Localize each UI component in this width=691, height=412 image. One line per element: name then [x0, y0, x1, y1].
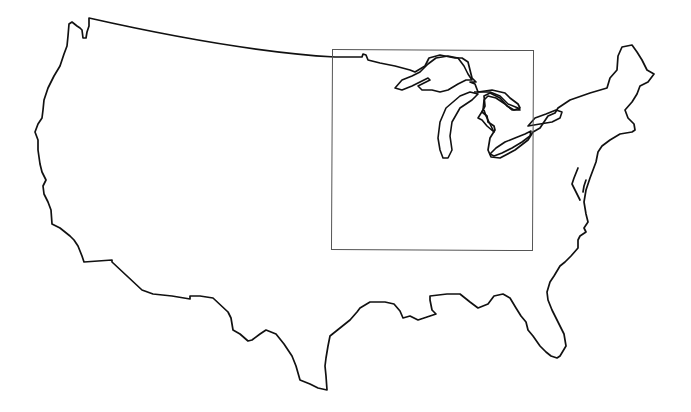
- lake-huron: [474, 92, 520, 132]
- us-map: [0, 0, 691, 412]
- lake-superior: [395, 56, 472, 92]
- lake-michigan: [438, 92, 478, 158]
- region-box: [331, 49, 533, 250]
- us-outline: [35, 18, 654, 390]
- chesapeake-bay: [572, 168, 586, 200]
